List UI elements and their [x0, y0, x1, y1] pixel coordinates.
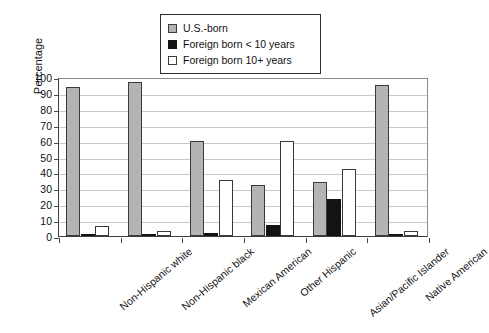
bar-group: [306, 79, 368, 236]
legend-item: Foreign born < 10 years: [168, 36, 314, 52]
bar: [190, 141, 204, 236]
bar: [95, 226, 109, 236]
y-tick-label: 90: [40, 89, 52, 99]
legend-label: U.S.-born: [183, 23, 228, 34]
bar: [157, 231, 171, 236]
bar: [342, 169, 356, 236]
legend-item: Foreign born 10+ years: [168, 52, 314, 68]
y-tick-label: 60: [40, 137, 52, 147]
bar-group: [59, 79, 121, 236]
bar: [66, 87, 80, 236]
bar-group: [244, 79, 306, 236]
legend-label: Foreign born 10+ years: [183, 55, 292, 66]
bar: [204, 233, 218, 236]
y-tick-label: 50: [40, 153, 52, 163]
legend-swatch-icon: [168, 56, 177, 65]
y-tick-label: 10: [40, 216, 52, 226]
y-tick-label: 20: [40, 200, 52, 210]
y-tick-label: 80: [40, 105, 52, 115]
y-tick-label: 40: [40, 168, 52, 178]
bar: [327, 199, 341, 236]
bar: [266, 225, 280, 236]
legend-swatch-icon: [168, 24, 177, 33]
y-tick-label: 100: [34, 73, 52, 83]
bar: [81, 234, 95, 236]
bar: [389, 234, 403, 236]
legend-label: Foreign born < 10 years: [183, 39, 295, 50]
bar: [219, 180, 233, 236]
bar-group: [367, 79, 429, 236]
bar: [404, 231, 418, 236]
bar: [313, 182, 327, 236]
x-axis-category-labels: Non-Hispanic whiteNon-Hispanic blackMexi…: [0, 243, 434, 333]
y-axis-tick-labels: 1009080706050403020100: [14, 78, 52, 237]
legend-swatch-icon: [168, 40, 177, 49]
chart-legend: U.S.-bornForeign born < 10 yearsForeign …: [160, 14, 321, 74]
bar-groups: [59, 79, 427, 236]
bar-group: [121, 79, 183, 236]
y-tick-label: 70: [40, 121, 52, 131]
y-tick-label: 30: [40, 184, 52, 194]
bar: [375, 85, 389, 236]
bar: [142, 234, 156, 236]
bar: [280, 141, 294, 236]
bar: [251, 185, 265, 236]
y-tick-label: 0: [46, 232, 52, 242]
plot-area: [58, 78, 428, 237]
bar-group: [182, 79, 244, 236]
bar: [128, 82, 142, 236]
legend-item: U.S.-born: [168, 20, 314, 36]
